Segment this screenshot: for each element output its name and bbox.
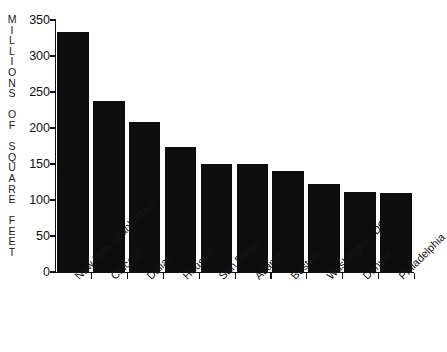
y-axis-tick-label: 100 <box>16 194 50 207</box>
y-axis-tick-mark <box>50 163 56 164</box>
y-axis-tick-labels: 050100150200250300350 <box>14 0 50 300</box>
y-axis-tick-label: 350 <box>16 14 50 27</box>
y-axis-tick-label: 300 <box>16 50 50 63</box>
y-axis-tick-mark <box>50 199 56 200</box>
plot-area <box>55 20 414 272</box>
y-axis-tick-label: 200 <box>16 122 50 135</box>
y-axis-tick-mark <box>50 235 56 236</box>
y-axis-tick-label: 50 <box>16 230 50 243</box>
x-axis-category-labels: New York (Manhattan)ChicagoDallasHouston… <box>55 274 423 352</box>
y-axis-tick-mark <box>50 127 56 128</box>
y-axis-tick-mark <box>50 271 56 272</box>
bar <box>57 32 89 272</box>
y-axis-tick-mark <box>50 91 56 92</box>
y-axis-tick-label: 150 <box>16 158 50 171</box>
y-axis-tick-label: 250 <box>16 86 50 99</box>
bar <box>165 147 197 272</box>
y-axis-tick-label: 0 <box>16 266 50 279</box>
y-axis-tick-mark <box>50 19 56 20</box>
y-axis-tick-mark <box>50 55 56 56</box>
